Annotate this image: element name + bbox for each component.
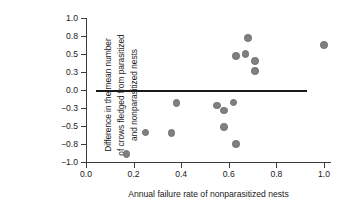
- x-axis-tick-label: 0.8: [261, 170, 291, 179]
- y-axis-label: Difference in the mean number of crows f…: [0, 0, 62, 214]
- x-axis-tick: [276, 163, 277, 168]
- x-axis-spine: [86, 162, 331, 163]
- data-point: [230, 99, 238, 107]
- x-axis-tick-label: 1.0: [309, 170, 339, 179]
- y-axis-spine: [86, 18, 87, 163]
- data-point: [251, 67, 259, 75]
- x-axis-tick: [324, 163, 325, 168]
- data-point: [320, 41, 328, 49]
- data-point: [244, 34, 252, 42]
- data-point: [232, 52, 240, 60]
- data-point: [232, 140, 240, 148]
- data-point: [251, 57, 259, 65]
- scatter-plot-figure: Difference in the mean number of crows f…: [0, 0, 351, 214]
- x-axis-label: Annual failure rate of nonparasitized ne…: [86, 190, 331, 199]
- data-point: [242, 50, 250, 58]
